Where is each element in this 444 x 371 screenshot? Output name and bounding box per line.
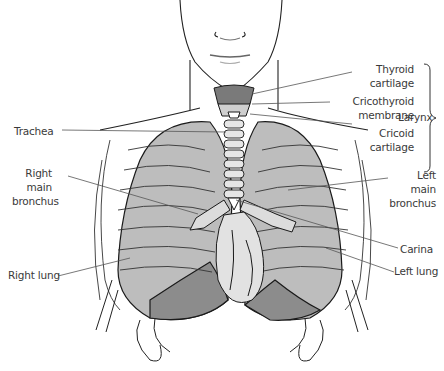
- leader-cricothyroid: [252, 102, 330, 104]
- label-larynx: Larynx: [398, 110, 432, 124]
- label-carina: Carina: [400, 242, 433, 256]
- label-cricoid-cartilage: Cricoid cartilage: [370, 126, 414, 154]
- label-thyroid-cartilage: Thyroid cartilage: [370, 62, 414, 90]
- label-left-lung: Left lung: [394, 264, 438, 278]
- label-left-main-bronchus: Left main bronchus: [389, 168, 436, 210]
- leader-thyroid: [252, 72, 352, 94]
- diagram-canvas: Thyroid cartilage Cricothyroid membrane …: [0, 0, 444, 371]
- label-trachea: Trachea: [14, 124, 54, 138]
- label-right-main-bronchus: Right main bronchus: [12, 166, 52, 208]
- anatomy-illustration: [0, 0, 444, 371]
- larynx-shape: [214, 85, 254, 118]
- label-right-lung: Right lung: [8, 268, 60, 282]
